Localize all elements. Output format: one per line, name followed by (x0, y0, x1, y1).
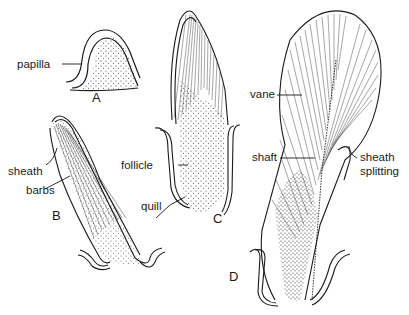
stage-label-b: B (52, 210, 61, 222)
stage-a-papilla (66, 30, 140, 91)
stage-c-feather (155, 11, 240, 215)
label-barbs: barbs (26, 184, 55, 196)
label-papilla: papilla (17, 58, 50, 70)
label-quill: quill (141, 200, 161, 212)
feather-development-diagram: papilla A sheath barbs B quill follicle … (0, 0, 409, 315)
diagram-drawing (0, 0, 409, 315)
label-sheath-splitting-1: sheath (360, 151, 395, 163)
stage-label-a: A (92, 92, 101, 104)
label-sheath-splitting-2: splitting (360, 165, 399, 177)
stage-b-feather (50, 116, 165, 270)
label-follicle: follicle (121, 159, 153, 171)
stage-label-c: C (213, 213, 222, 225)
label-shaft: shaft (252, 151, 277, 163)
label-sheath: sheath (8, 165, 43, 177)
label-vane: vane (250, 88, 275, 100)
stage-label-d: D (229, 271, 238, 283)
